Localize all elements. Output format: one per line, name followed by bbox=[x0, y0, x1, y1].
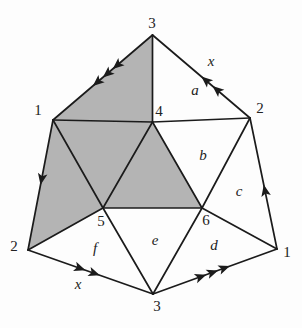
edge-arrows-bottom-right bbox=[194, 262, 232, 284]
vertex-label-right-1: 1 bbox=[283, 244, 291, 260]
edge-arrows-right bbox=[259, 184, 271, 197]
arrowhead-icon bbox=[206, 266, 220, 279]
arrowhead-icon bbox=[194, 270, 208, 283]
face-label-a: a bbox=[191, 82, 199, 98]
triangulation-diagram: 3 2 1 3 2 1 4 5 6 a b c d e f x x bbox=[0, 0, 302, 328]
arrowhead-icon bbox=[73, 262, 87, 275]
arrowhead-icon bbox=[217, 262, 231, 275]
face-label-b: b bbox=[199, 147, 207, 163]
vertex-label-inner-4: 4 bbox=[155, 103, 163, 119]
vertex-label-bottom-3: 3 bbox=[153, 298, 161, 314]
edge-top-right-x bbox=[153, 35, 251, 118]
edge-bottom-left-x bbox=[28, 250, 153, 294]
vertex-label-bottom-left-2: 2 bbox=[10, 238, 18, 254]
vertex-label-left-1: 1 bbox=[34, 102, 42, 118]
edge-label-x-top: x bbox=[207, 53, 215, 69]
edge-6-2 bbox=[202, 118, 250, 208]
vertex-label-inner-6: 6 bbox=[202, 212, 210, 228]
edge-label-x-bottom: x bbox=[74, 276, 82, 292]
edge-3-6 bbox=[153, 208, 202, 294]
face-label-d: d bbox=[210, 237, 218, 253]
arrowhead-icon bbox=[87, 267, 101, 280]
triangulation-figure: 3 2 1 3 2 1 4 5 6 a b c d e f x x bbox=[0, 0, 302, 328]
edge-right bbox=[250, 118, 277, 249]
face-label-c: c bbox=[236, 183, 243, 199]
vertex-label-inner-5: 5 bbox=[97, 213, 105, 229]
edge-4-2 bbox=[153, 118, 251, 122]
face-label-e: e bbox=[152, 232, 159, 248]
vertex-label-top-3: 3 bbox=[148, 15, 156, 31]
arrowhead-icon bbox=[259, 184, 271, 197]
edge-5-3 bbox=[103, 208, 153, 294]
face-label-f: f bbox=[93, 240, 99, 256]
vertex-label-top-right-2: 2 bbox=[256, 100, 264, 116]
